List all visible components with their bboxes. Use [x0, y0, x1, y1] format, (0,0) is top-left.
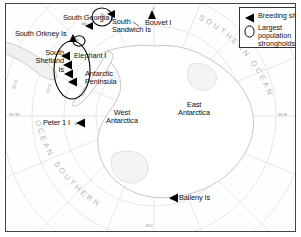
- graticule-label-lon-90w: 90°W: [9, 112, 19, 117]
- map-frame: SOUTHERN OCEAN OCEAN SOUTHERN: [5, 3, 296, 232]
- label-south-shetland: SouthShetlandIs: [6, 49, 64, 74]
- map-legend: Breeding site Largest population strongh…: [239, 7, 296, 48]
- label-west-antarctica-line2: Antarctica: [106, 116, 138, 125]
- label-east-antarctica-line2: Antarctica: [178, 108, 210, 117]
- triangle-left-icon: [244, 13, 255, 23]
- breeding-site-peninsula-3: [64, 70, 73, 79]
- graticule-label-lon-0: 0°: [152, 6, 156, 11]
- label-peter-1-island: Peter 1 I: [43, 119, 70, 127]
- breeding-site-peter-1: [76, 119, 85, 128]
- antarctic-map: SOUTHERN OCEAN OCEAN SOUTHERN: [0, 0, 301, 237]
- legend-row-breeding-site: Breeding site: [244, 12, 296, 23]
- legend-row-strongholds: Largest population strongholds: [244, 24, 295, 49]
- legend-strongholds-label: Largest population strongholds: [258, 24, 295, 49]
- label-antarctic-peninsula: AntarcticPeninsula: [85, 70, 117, 87]
- graticule-label-lon-180: 180°: [145, 223, 154, 228]
- label-west-antarctica: WestAntarctica: [98, 109, 146, 126]
- ellipse-outline-icon: [244, 25, 255, 38]
- label-balleny-islands: Balleny Is: [179, 194, 210, 202]
- label-antarctic-peninsula-line2: Peninsula: [85, 77, 117, 86]
- label-bouvet: Bouvet I: [145, 19, 171, 27]
- label-south-orkney: South Orkney Is: [15, 30, 67, 38]
- legend-breeding-site-label: Breeding site: [258, 12, 296, 20]
- label-east-antarctica: EastAntarctica: [170, 101, 218, 118]
- label-elephant-island: Elephant I: [74, 52, 106, 60]
- graticule-label-lon-90e: 90°E: [278, 112, 287, 117]
- label-south-georgia: South Georgia I: [63, 14, 113, 22]
- label-south-shetland-line3: Is: [58, 65, 64, 74]
- breeding-site-peninsula-2: [63, 61, 72, 70]
